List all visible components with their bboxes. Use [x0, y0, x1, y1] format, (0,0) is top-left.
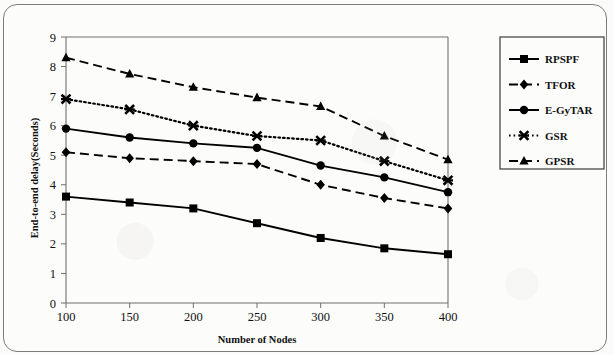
series-marker-gsr — [188, 121, 198, 130]
x-tick-label: 350 — [375, 310, 394, 324]
series-marker-rpspf — [317, 234, 325, 242]
legend-label-gpsr: GPSR — [545, 155, 575, 167]
legend-label-tfor: TFOR — [545, 79, 577, 91]
y-axis-title: End-to-end delay(Seconds) — [29, 117, 41, 238]
series-marker-tfor — [189, 156, 198, 166]
y-tick-label: 2 — [50, 237, 56, 251]
y-tick-label: 7 — [50, 90, 56, 104]
series-marker-gsr — [252, 132, 262, 141]
x-tick-label: 300 — [311, 310, 330, 324]
series-marker-rpspf — [253, 219, 261, 227]
legend-label-e-gytar: E-GyTAR — [545, 104, 594, 116]
y-tick-label: 8 — [50, 60, 56, 74]
series-marker-rpspf — [189, 204, 197, 212]
legend-label-gsr: GSR — [545, 130, 569, 142]
series-marker-gsr — [316, 136, 326, 145]
series-marker-e-gytar — [253, 144, 261, 152]
series-marker-e-gytar — [316, 161, 324, 169]
y-tick-label: 5 — [50, 149, 56, 163]
series-marker-tfor — [380, 193, 389, 203]
plot-frame — [66, 37, 448, 303]
series-marker-tfor — [125, 153, 134, 163]
series-marker-tfor — [253, 159, 262, 169]
series-marker-rpspf — [444, 250, 452, 258]
legend-marker-e-gytar — [520, 106, 528, 114]
series-marker-e-gytar — [444, 188, 452, 196]
y-axis: 0123456789 — [50, 31, 66, 311]
y-tick-label: 4 — [50, 178, 57, 192]
series-marker-tfor — [62, 147, 71, 157]
series-marker-e-gytar — [125, 133, 133, 141]
y-tick-label: 1 — [50, 267, 56, 281]
x-axis: 100150200250300350400 — [57, 303, 458, 324]
x-tick-label: 400 — [439, 310, 458, 324]
series-marker-tfor — [444, 203, 453, 213]
chart-svg: 0123456789 100150200250300350400 Number … — [0, 0, 614, 355]
series-marker-tfor — [316, 180, 325, 190]
series-marker-rpspf — [62, 193, 70, 201]
y-tick-label: 3 — [50, 208, 56, 222]
marker-layer — [61, 53, 453, 259]
x-tick-label: 200 — [184, 310, 203, 324]
y-tick-label: 9 — [50, 31, 56, 45]
series-marker-e-gytar — [380, 173, 388, 181]
series-marker-gpsr — [61, 53, 70, 62]
series-marker-gpsr — [252, 93, 261, 102]
series-marker-e-gytar — [189, 139, 197, 147]
legend: RPSPFTFORE-GyTARGSRGPSR — [500, 37, 604, 169]
legend-marker-rpspf — [520, 55, 528, 63]
y-tick-label: 6 — [50, 119, 56, 133]
series-marker-e-gytar — [62, 124, 70, 132]
series-marker-rpspf — [380, 244, 388, 252]
series-marker-gsr — [379, 157, 389, 166]
series-marker-rpspf — [126, 199, 134, 207]
line-chart: 0123456789 100150200250300350400 Number … — [0, 0, 614, 355]
x-axis-title: Number of Nodes — [218, 334, 297, 345]
y-tick-label: 0 — [50, 297, 56, 311]
x-tick-label: 100 — [57, 310, 76, 324]
legend-label-rpspf: RPSPF — [545, 53, 580, 65]
x-tick-label: 250 — [248, 310, 267, 324]
x-tick-label: 150 — [120, 310, 139, 324]
series-marker-gsr — [125, 105, 135, 114]
